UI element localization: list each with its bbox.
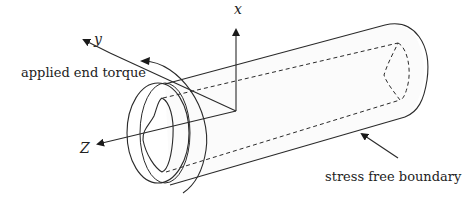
boundary-pointer-arrow <box>362 134 398 158</box>
torque-label: applied end torque <box>21 65 146 80</box>
z-axis-label: Z <box>79 140 90 156</box>
torsion-tube-diagram: x y Z applied end torque stress free bou… <box>0 0 476 201</box>
tube-body <box>165 24 428 185</box>
x-axis-label: x <box>234 1 242 17</box>
boundary-label: stress free boundary <box>325 169 462 184</box>
torque-arrowhead-icon <box>140 57 150 65</box>
y-axis-label: y <box>93 31 103 47</box>
